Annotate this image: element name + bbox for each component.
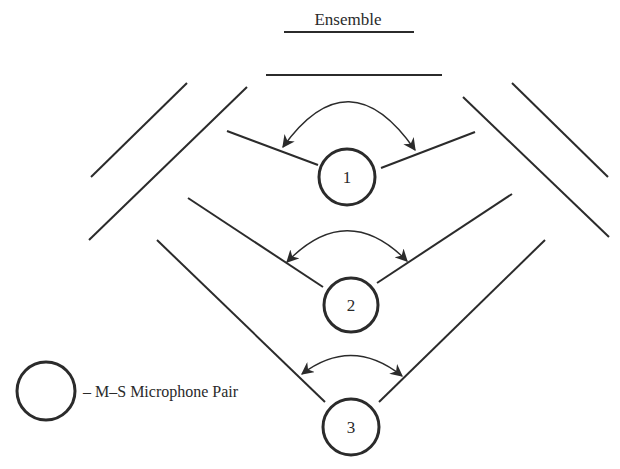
double-arrow-arc-icon bbox=[302, 355, 402, 376]
stage-wall-right-outer bbox=[512, 83, 608, 177]
stage-wall-left-inner bbox=[89, 87, 247, 240]
ms-pair-3: 3 bbox=[157, 240, 545, 455]
microphone-pairs: 123 bbox=[157, 102, 545, 455]
double-arrow-arc-icon bbox=[283, 102, 415, 150]
pickup-line-right bbox=[381, 132, 475, 168]
pickup-line-left bbox=[188, 198, 323, 287]
ensemble-title: Ensemble bbox=[314, 10, 381, 29]
microphone-pair-number: 2 bbox=[347, 296, 356, 315]
pickup-line-left bbox=[157, 240, 325, 402]
legend-ms-pair-symbol bbox=[17, 362, 75, 420]
ms-pair-1: 1 bbox=[227, 102, 475, 205]
microphone-pair-number: 1 bbox=[343, 168, 352, 187]
pickup-line-left bbox=[227, 131, 318, 165]
pickup-line-right bbox=[377, 194, 512, 283]
stage-wall-right-inner bbox=[463, 97, 609, 237]
microphone-pair-number: 3 bbox=[347, 418, 356, 437]
legend: – M–S Microphone Pair bbox=[17, 362, 239, 420]
ensemble-ms-microphone-diagram: Ensemble 123 – M–S Microphone Pair bbox=[0, 0, 620, 469]
stage-wall-left-outer bbox=[91, 83, 187, 177]
legend-label: – M–S Microphone Pair bbox=[82, 383, 239, 401]
double-arrow-arc-icon bbox=[287, 231, 407, 262]
ensemble-lines bbox=[266, 32, 442, 75]
ms-pair-2: 2 bbox=[188, 194, 512, 332]
